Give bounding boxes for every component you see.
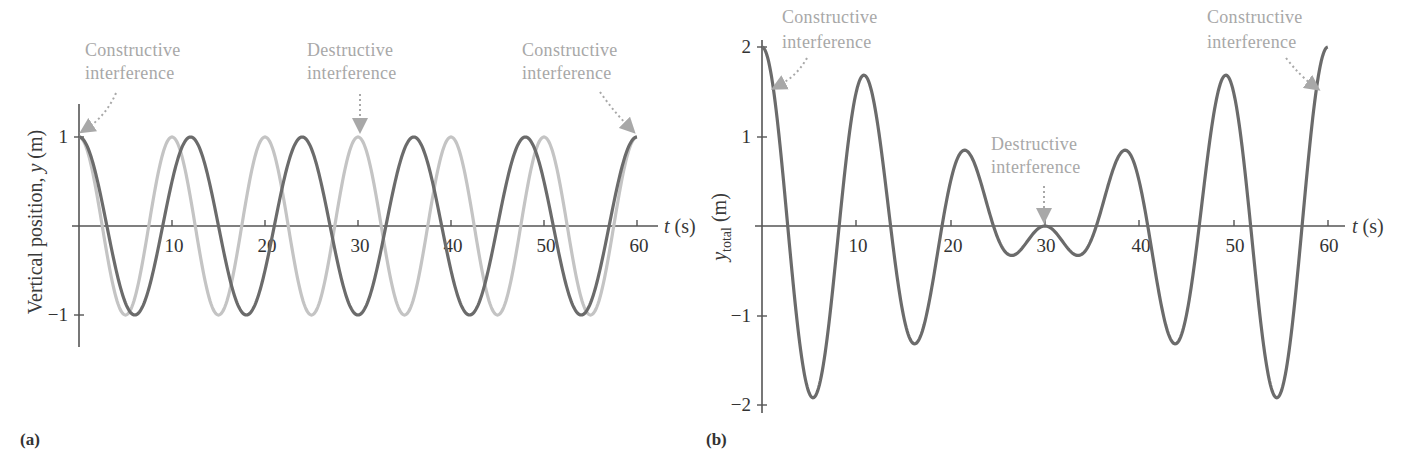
y-axis-label-a: Vertical position, y (m) (24, 130, 47, 314)
svg-text:Constructive: Constructive (1207, 7, 1303, 27)
x-tick-label-a: 60 (630, 235, 649, 256)
x-tick-label-b: 30 (1037, 235, 1056, 256)
y-tick-label-a: −1 (48, 304, 68, 325)
annotation-destructive-a: Destructive interference (307, 40, 397, 126)
arrow-icon (778, 58, 807, 86)
svg-text:interference: interference (991, 157, 1081, 177)
x-ticks-b (856, 220, 1328, 226)
x-tick-label-a: 50 (537, 235, 556, 256)
svg-text:interference: interference (782, 32, 872, 52)
panel-a: 1 −1 10 20 30 40 50 60 t (s) Vertical po… (20, 40, 696, 449)
figure: 1 −1 10 20 30 40 50 60 t (s) Vertical po… (0, 0, 1407, 471)
x-axis-label-a: t (s) (664, 215, 696, 238)
svg-text:Constructive: Constructive (782, 7, 878, 27)
arrow-icon (1286, 58, 1314, 86)
y-tick-label-b: 1 (742, 126, 752, 147)
x-tick-label-b: 10 (849, 235, 868, 256)
y-tick-label-a: 1 (59, 126, 69, 147)
svg-text:interference: interference (85, 63, 175, 83)
x-axis-label-b: t (s) (1352, 215, 1384, 238)
svg-text:interference: interference (522, 63, 612, 83)
y-tick-label-b: −1 (731, 305, 751, 326)
y-tick-label-b: −2 (731, 394, 751, 415)
arrow-icon (86, 93, 116, 129)
y-tick-label-b: 2 (742, 36, 752, 57)
x-tick-label-b: 50 (1226, 235, 1245, 256)
panel-label-b: (b) (706, 430, 727, 449)
annotation-constructive-right-b: Constructive interference (1207, 7, 1314, 86)
svg-text:Constructive: Constructive (85, 40, 181, 60)
svg-text:interference: interference (1207, 32, 1297, 52)
svg-text:interference: interference (307, 63, 397, 83)
x-tick-label-b: 60 (1320, 235, 1339, 256)
panel-label-a: (a) (20, 430, 40, 449)
annotation-destructive-b: Destructive interference (991, 134, 1081, 216)
x-tick-label-a: 30 (351, 235, 370, 256)
y-axis-label-b: ytotal (m) (708, 193, 734, 263)
svg-text:Destructive: Destructive (991, 134, 1077, 154)
annotation-constructive-left-a: Constructive interference (85, 40, 181, 129)
svg-text:Constructive: Constructive (522, 40, 618, 60)
annotation-constructive-right-a: Constructive interference (522, 40, 630, 128)
x-tick-label-b: 20 (944, 235, 963, 256)
svg-text:Destructive: Destructive (307, 40, 393, 60)
x-tick-label-a: 20 (258, 235, 277, 256)
arrow-icon (600, 92, 630, 128)
x-tick-label-a: 10 (165, 235, 184, 256)
panel-b: 2 1 −1 −2 10 20 30 40 50 60 t (s) ytotal… (706, 7, 1384, 449)
x-tick-label-b: 40 (1132, 235, 1151, 256)
